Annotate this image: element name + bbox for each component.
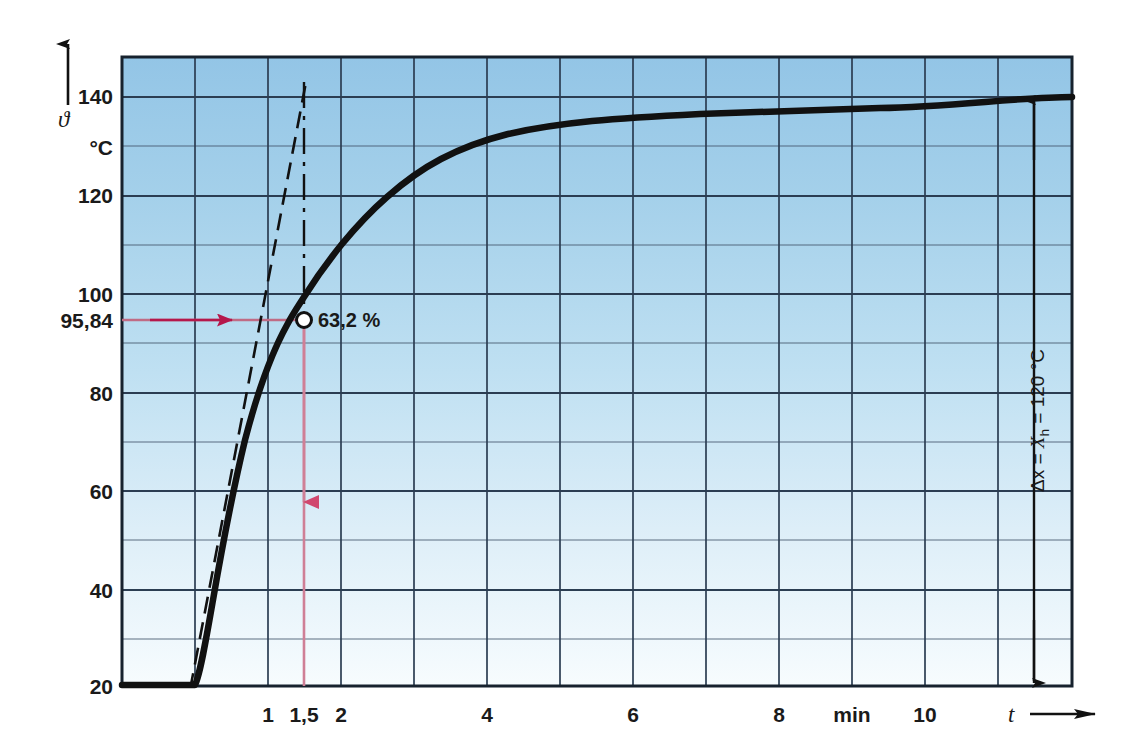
x-tick-2: 2 [311,704,371,725]
y-tick-80: 80 [51,383,113,404]
span-label: Δx = Xh = 120 °C [1028,349,1051,492]
y-axis-unit: °C [51,137,113,158]
data-point-marker [297,313,312,328]
span-label-prefix: Δx = [1027,448,1048,492]
y-tick-140: 140 [51,86,113,107]
y-tick-40: 40 [51,580,113,601]
span-label-suffix: = 120 °C [1027,349,1048,429]
x-tick-8: 8 [749,704,809,725]
x-axis-unit: min [822,704,882,725]
span-label-subscript: h [1037,429,1052,437]
step-response-chart: ϑ 140 °C 120 100 95,84 80 60 40 20 1 1,5… [0,0,1125,754]
percent-label: 63,2 % [318,310,380,330]
x-tick-6: 6 [603,704,663,725]
x-tick-4: 4 [457,704,517,725]
span-label-symbol: X [1027,437,1048,449]
x-tick-10: 10 [895,704,955,725]
y-axis-symbol: ϑ [58,108,69,131]
y-tick-20: 20 [51,676,113,697]
y-tick-100: 100 [51,284,113,305]
chart-canvas [0,0,1125,754]
x-axis-symbol: t [1008,703,1014,726]
y-tick-120: 120 [51,185,113,206]
y-tick-highlight-95-84: 95,84 [27,310,113,331]
y-tick-60: 60 [51,481,113,502]
